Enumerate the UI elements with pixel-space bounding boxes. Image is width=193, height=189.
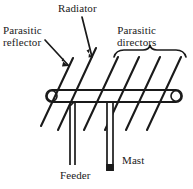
reflector-leader-line [45, 40, 69, 66]
mast-tube [106, 100, 114, 171]
label-parasitic-reflector: Parasitic reflector [3, 25, 42, 48]
yagi-antenna-figure: Parasitic reflector Radiator Parasitic d… [0, 0, 193, 189]
label-parasitic-directors-line2: directors [117, 37, 156, 49]
label-feeder: Feeder [60, 170, 91, 182]
label-parasitic-directors-line1: Parasitic [117, 25, 156, 37]
label-parasitic-reflector-line2: reflector [3, 37, 42, 49]
label-feeder-text: Feeder [60, 170, 91, 182]
label-mast: Mast [122, 155, 144, 167]
label-radiator-text: Radiator [58, 3, 97, 15]
label-mast-text: Mast [122, 155, 144, 167]
label-parasitic-directors: Parasitic directors [117, 25, 156, 48]
feeder-twin-line [70, 102, 78, 165]
label-parasitic-reflector-line1: Parasitic [3, 25, 42, 37]
leader-arrowheads [62, 49, 93, 67]
label-radiator: Radiator [58, 3, 97, 15]
leader-lines [45, 17, 92, 66]
